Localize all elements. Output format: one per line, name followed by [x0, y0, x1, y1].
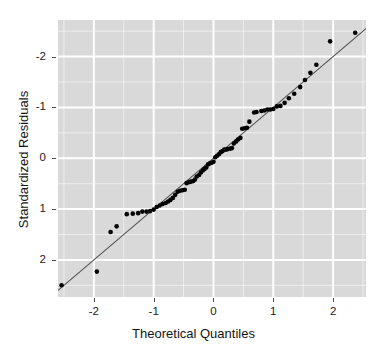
- data-point: [130, 211, 135, 216]
- data-point: [230, 146, 235, 151]
- data-point: [314, 62, 319, 67]
- data-point: [292, 91, 297, 96]
- y-tick-mark: [52, 209, 56, 210]
- data-point: [182, 187, 187, 192]
- major-gridlines: [58, 20, 366, 297]
- data-point: [328, 39, 333, 44]
- x-tick-label: 0: [210, 306, 216, 318]
- x-tick-label: 2: [330, 306, 336, 318]
- data-point: [136, 211, 141, 216]
- data-point: [245, 125, 250, 130]
- x-tick-label: 1: [270, 306, 276, 318]
- x-tick-mark: [94, 298, 95, 302]
- plot-canvas: [58, 20, 366, 297]
- data-point: [247, 119, 252, 124]
- y-tick-mark: [52, 260, 56, 261]
- data-point: [278, 104, 283, 109]
- qq-plot-figure: 210-1-2 -2-1012 Theoretical Quantiles St…: [0, 0, 387, 355]
- x-tick-mark: [273, 298, 274, 302]
- x-tick-mark: [154, 298, 155, 302]
- y-tick-mark: [52, 57, 56, 58]
- data-point: [298, 85, 303, 90]
- y-tick-mark: [52, 107, 56, 108]
- data-point: [303, 78, 308, 83]
- y-tick-mark: [52, 158, 56, 159]
- data-point: [287, 96, 292, 101]
- data-point: [353, 30, 358, 35]
- x-tick-mark: [213, 298, 214, 302]
- data-point: [254, 110, 259, 115]
- data-point: [108, 230, 113, 235]
- reference-line: [58, 29, 366, 291]
- x-tick-label: -2: [89, 306, 99, 318]
- data-point: [308, 71, 313, 76]
- x-tick-label: -1: [149, 306, 159, 318]
- data-point: [59, 283, 64, 288]
- data-point: [95, 269, 100, 274]
- data-point: [124, 212, 129, 217]
- x-tick-mark: [333, 298, 334, 302]
- data-point: [211, 160, 216, 165]
- data-point: [282, 101, 287, 106]
- x-axis-title: Theoretical Quantiles: [0, 326, 387, 341]
- data-point: [238, 136, 243, 141]
- y-axis-title: Standardized Residuals: [16, 50, 31, 270]
- plot-panel: [58, 20, 366, 297]
- data-point: [140, 209, 145, 214]
- data-point: [114, 224, 119, 229]
